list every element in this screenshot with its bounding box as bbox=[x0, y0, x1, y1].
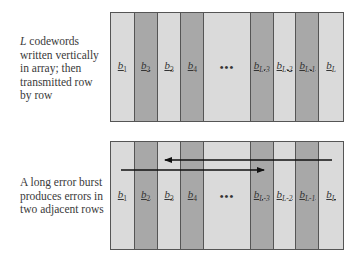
error-burst-arrows bbox=[0, 0, 362, 261]
